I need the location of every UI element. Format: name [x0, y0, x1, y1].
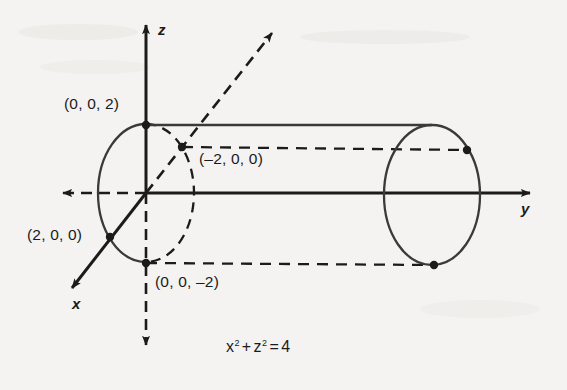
equation: x2+z2=4 [226, 339, 290, 355]
label-point-z-pos: (0, 0, 2) [64, 96, 119, 112]
equation-value: 4 [281, 338, 290, 355]
cylinder-diagram [0, 0, 567, 390]
label-point-x-neg: (–2, 0, 0) [199, 151, 263, 167]
point-x-neg [178, 143, 186, 151]
point-x-pos [106, 233, 114, 241]
label-x-axis: x [72, 296, 80, 311]
ruling-bottom-dashed [146, 263, 434, 265]
equation-equals: = [267, 338, 281, 355]
label-z-axis: z [158, 22, 166, 37]
equation-term2-base: z [254, 338, 262, 355]
point-z-pos [142, 121, 150, 129]
label-point-z-neg: (0, 0, –2) [155, 274, 219, 290]
far-ellipse [384, 125, 480, 265]
negative-x-axis [146, 33, 272, 193]
point-far-top [463, 146, 471, 154]
point-z-neg [142, 259, 150, 267]
label-y-axis: y [521, 201, 529, 216]
equation-plus: + [240, 338, 254, 355]
label-point-x-pos: (2, 0, 0) [27, 227, 82, 243]
point-far-bottom [430, 261, 438, 269]
equation-term1-exponent: 2 [234, 338, 239, 348]
